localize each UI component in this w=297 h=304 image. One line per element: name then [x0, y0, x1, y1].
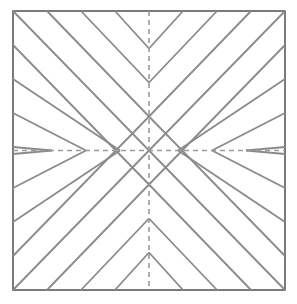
pattern-canvas: Square frame containing a four-fold symm…: [0, 0, 297, 304]
chevron-pattern-figure: Square frame containing a four-fold symm…: [0, 0, 297, 304]
